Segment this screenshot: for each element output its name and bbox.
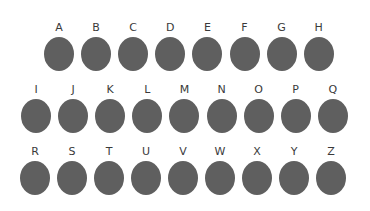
circle-icon[interactable] xyxy=(20,161,50,195)
circle-icon[interactable] xyxy=(168,161,198,195)
letter-label: L xyxy=(131,84,163,96)
letter-label: G xyxy=(266,22,298,34)
letter-label: Q xyxy=(317,84,349,96)
letter-label: X xyxy=(241,146,273,158)
letter-label: B xyxy=(80,22,112,34)
circle-icon[interactable] xyxy=(155,37,185,71)
circle-icon[interactable] xyxy=(58,99,88,133)
circle-icon[interactable] xyxy=(118,37,148,71)
circle-icon[interactable] xyxy=(304,37,334,71)
circle-icon[interactable] xyxy=(281,99,311,133)
letter-label: U xyxy=(130,146,162,158)
letter-label: A xyxy=(43,22,75,34)
circle-icon[interactable] xyxy=(244,99,274,133)
letter-label: H xyxy=(303,22,335,34)
letter-label: I xyxy=(20,84,52,96)
circle-icon[interactable] xyxy=(318,99,348,133)
circle-icon[interactable] xyxy=(192,37,222,71)
circle-icon[interactable] xyxy=(57,161,87,195)
letter-label: F xyxy=(229,22,261,34)
letter-label: P xyxy=(280,84,312,96)
circle-icon[interactable] xyxy=(169,99,199,133)
letter-label: K xyxy=(94,84,126,96)
letter-label: O xyxy=(243,84,275,96)
circle-icon[interactable] xyxy=(316,161,346,195)
circle-icon[interactable] xyxy=(279,161,309,195)
circle-icon[interactable] xyxy=(207,99,237,133)
circle-icon[interactable] xyxy=(44,37,74,71)
letter-label: C xyxy=(117,22,149,34)
letter-label: T xyxy=(93,146,125,158)
circle-icon[interactable] xyxy=(95,99,125,133)
circle-icon[interactable] xyxy=(242,161,272,195)
circle-icon[interactable] xyxy=(205,161,235,195)
letter-label: W xyxy=(204,146,236,158)
circle-icon[interactable] xyxy=(267,37,297,71)
circle-icon[interactable] xyxy=(94,161,124,195)
letter-label: Z xyxy=(315,146,347,158)
letter-label: M xyxy=(168,84,200,96)
circle-icon[interactable] xyxy=(81,37,111,71)
circle-icon[interactable] xyxy=(230,37,260,71)
circle-icon[interactable] xyxy=(132,99,162,133)
letter-label: Y xyxy=(278,146,310,158)
letter-label: D xyxy=(154,22,186,34)
circle-icon[interactable] xyxy=(21,99,51,133)
letter-label: R xyxy=(19,146,51,158)
letter-label: S xyxy=(56,146,88,158)
letter-label: E xyxy=(191,22,223,34)
letter-label: N xyxy=(206,84,238,96)
letter-label: J xyxy=(57,84,89,96)
circle-icon[interactable] xyxy=(131,161,161,195)
letter-label: V xyxy=(167,146,199,158)
